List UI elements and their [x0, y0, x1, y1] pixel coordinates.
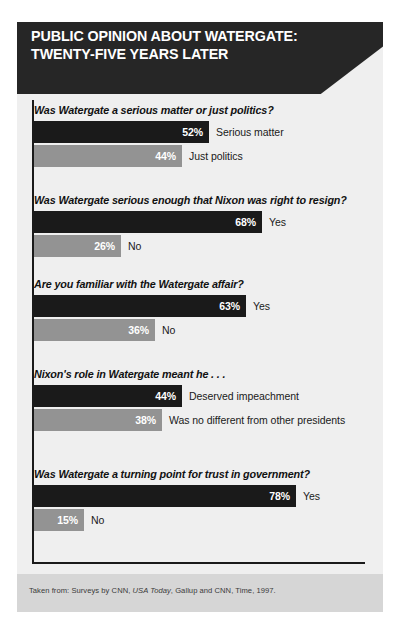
bar-label: No — [91, 509, 104, 531]
page-title: PUBLIC OPINION ABOUT WATERGATE: TWENTY-F… — [31, 28, 321, 63]
bar-label: Serious matter — [216, 121, 284, 143]
bar: 63% — [34, 295, 246, 317]
bar: 68% — [34, 211, 262, 233]
question-group: Was Watergate a turning point for trust … — [34, 468, 382, 533]
bar-value: 38% — [135, 414, 156, 426]
bar: 78% — [34, 485, 296, 507]
bar: 44% — [34, 385, 182, 407]
question-group: Was Watergate a serious matter or just p… — [34, 104, 382, 169]
bar-row: 44%Just politics — [34, 145, 382, 167]
bar: 15% — [34, 509, 84, 531]
bar-row: 15%No — [34, 509, 382, 531]
bar-value: 15% — [57, 514, 78, 526]
bar-value: 44% — [155, 150, 176, 162]
question-text: Was Watergate a serious matter or just p… — [34, 104, 382, 117]
bar-label: No — [128, 235, 141, 257]
bar-row: 26%No — [34, 235, 382, 257]
bar-row: 63%Yes — [34, 295, 382, 317]
bar-row: 52%Serious matter — [34, 121, 382, 143]
page-title-line-1: PUBLIC OPINION ABOUT WATERGATE: — [31, 28, 321, 46]
question-group: Are you familiar with the Watergate affa… — [34, 278, 382, 343]
bar-label: Yes — [253, 295, 270, 317]
watergate-infographic: PUBLIC OPINION ABOUT WATERGATE: TWENTY-F… — [0, 0, 400, 638]
source-publication: USA Today — [133, 586, 171, 595]
bar-value: 78% — [269, 490, 290, 502]
bar: 38% — [34, 409, 162, 431]
bar-row: 78%Yes — [34, 485, 382, 507]
source-suffix: , Gallup and CNN, Time, 1997. — [171, 586, 276, 595]
bar-label: Yes — [269, 211, 286, 233]
question-text: Was Watergate a turning point for trust … — [34, 468, 382, 481]
bar-label: Yes — [303, 485, 320, 507]
bar-value: 68% — [235, 216, 256, 228]
question-text: Was Watergate serious enough that Nixon … — [34, 194, 382, 207]
bar-value: 44% — [155, 390, 176, 402]
source-credit: Taken from: Surveys by CNN, USA Today, G… — [29, 586, 276, 595]
axis-horizontal-rule — [32, 562, 365, 564]
bar-value: 63% — [219, 300, 240, 312]
question-text: Are you familiar with the Watergate affa… — [34, 278, 382, 291]
question-group: Nixon's role in Watergate meant he . . .… — [34, 368, 382, 433]
bar: 44% — [34, 145, 182, 167]
bar-label: Was no different from other presidents — [169, 409, 345, 431]
bar: 52% — [34, 121, 209, 143]
bar-row: 38%Was no different from other president… — [34, 409, 382, 431]
bar-label: Deserved impeachment — [189, 385, 299, 407]
bar: 26% — [34, 235, 121, 257]
page-title-line-2: TWENTY-FIVE YEARS LATER — [31, 46, 321, 64]
bar-value: 36% — [128, 324, 149, 336]
bar-label: Just politics — [189, 145, 243, 167]
bar: 36% — [34, 319, 155, 341]
source-prefix: Taken from: Surveys by CNN, — [29, 586, 133, 595]
question-group: Was Watergate serious enough that Nixon … — [34, 194, 382, 259]
question-text: Nixon's role in Watergate meant he . . . — [34, 368, 382, 381]
bar-row: 44%Deserved impeachment — [34, 385, 382, 407]
bar-row: 36%No — [34, 319, 382, 341]
bar-value: 26% — [94, 240, 115, 252]
bar-label: No — [162, 319, 175, 341]
bar-row: 68%Yes — [34, 211, 382, 233]
bar-value: 52% — [182, 126, 203, 138]
